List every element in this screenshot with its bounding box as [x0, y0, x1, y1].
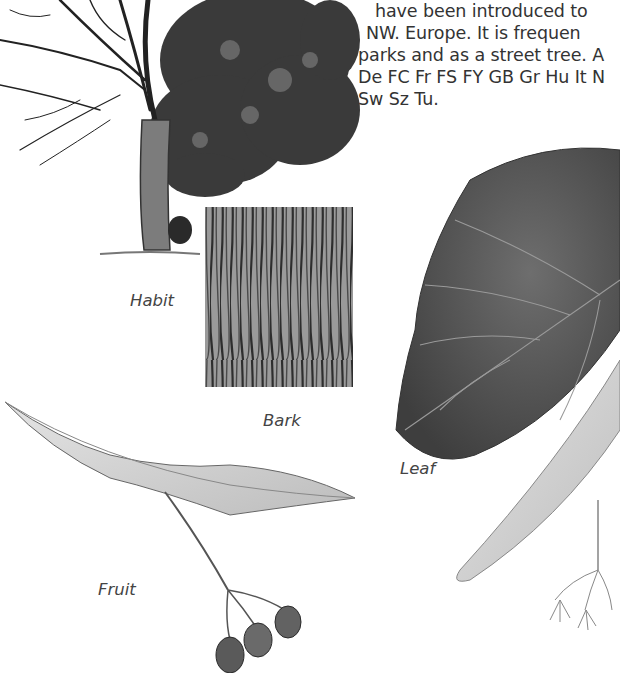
bark-illustration	[205, 207, 353, 387]
description-line-2: NW. Europe. It is frequen	[358, 22, 620, 44]
leaf-illustration	[396, 148, 620, 630]
caption-fruit: Fruit	[98, 580, 136, 599]
description-line-1: have been introduced to	[358, 0, 620, 22]
description-line-4: De FC Fr FS FY GB Gr Hu It N	[358, 66, 620, 88]
caption-leaf: Leaf	[400, 459, 435, 478]
description-text: have been introduced to NW. Europe. It i…	[358, 0, 620, 110]
fruit-illustration	[5, 402, 355, 673]
description-line-3: parks and as a street tree. A	[358, 44, 620, 66]
description-line-5: Sw Sz Tu.	[358, 88, 620, 110]
caption-habit: Habit	[130, 291, 174, 310]
caption-bark: Bark	[263, 411, 301, 430]
